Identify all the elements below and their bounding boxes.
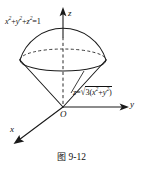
cone-equation-label: z=√3(x2+y2)	[73, 86, 112, 97]
figure-caption-prefix: 图	[57, 152, 66, 162]
z-axis	[60, 7, 67, 106]
x-axis-label: x	[10, 125, 14, 134]
origin-label: O	[60, 110, 67, 119]
radical-sign: √	[81, 88, 85, 98]
cone-right-generatrix	[63, 60, 106, 107]
figure-caption: 图 9-12	[0, 150, 143, 163]
figure-caption-number: 9-12	[68, 152, 85, 162]
cone-eq-radicand: 3(x2+y2)	[85, 86, 112, 97]
cone-left-generatrix	[20, 60, 63, 107]
x-axis-arrowhead	[14, 135, 25, 144]
y-axis	[63, 104, 129, 111]
z-axis-label: z	[68, 9, 72, 18]
sphere-equation-label: x2+y2+z2=1	[5, 16, 41, 26]
sphere-eq-rhs: 1	[37, 17, 41, 26]
x-axis-shaft	[20, 107, 64, 140]
x-axis	[14, 107, 64, 144]
figure-container: z y x O x2+y2+z2=1 z=√3(x2+y2) 图 9-12	[0, 0, 143, 171]
y-axis-label: y	[130, 100, 134, 109]
